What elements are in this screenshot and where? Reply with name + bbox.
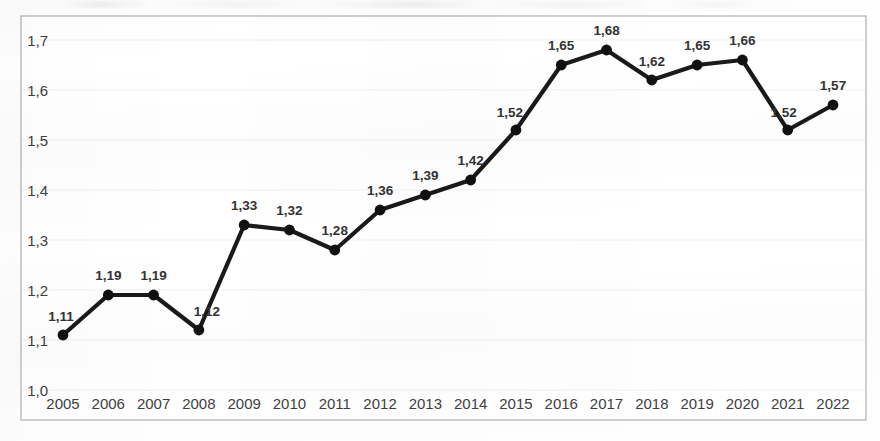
data-point-2016 <box>556 60 567 71</box>
x-tick-label-2018: 2018 <box>635 395 668 412</box>
data-point-2020 <box>737 55 748 66</box>
x-tick-label-2020: 2020 <box>726 395 759 412</box>
x-tick-label-2022: 2022 <box>816 395 849 412</box>
value-label-2013: 1,39 <box>412 168 438 183</box>
data-point-2013 <box>420 190 431 201</box>
value-label-2019: 1,65 <box>684 38 711 53</box>
data-point-2022 <box>828 100 839 111</box>
y-tick-label: 1,1 <box>27 332 48 349</box>
data-point-2015 <box>511 125 522 136</box>
x-tick-label-2017: 2017 <box>590 395 623 412</box>
value-label-2022: 1,57 <box>820 78 846 93</box>
value-label-2006: 1,19 <box>95 268 121 283</box>
value-label-2021: 1,52 <box>771 105 797 120</box>
plot-background <box>21 16 866 420</box>
x-tick-label-2013: 2013 <box>409 395 442 412</box>
value-label-2007: 1,19 <box>140 268 166 283</box>
data-point-2011 <box>329 245 340 256</box>
value-label-2020: 1,66 <box>729 33 756 48</box>
y-tick-label: 1,6 <box>27 82 48 99</box>
value-label-2014: 1,42 <box>458 153 484 168</box>
line-chart-figure: 1,01,11,21,31,41,51,61,7 200520062007200… <box>0 0 880 441</box>
x-tick-label-2015: 2015 <box>499 395 532 412</box>
data-point-2021 <box>782 125 793 136</box>
value-label-2005: 1,11 <box>48 309 74 324</box>
data-point-2009 <box>239 220 250 231</box>
x-tick-label-2014: 2014 <box>454 395 487 412</box>
data-point-2008 <box>193 325 204 336</box>
y-tick-label: 1,2 <box>27 282 48 299</box>
x-tick-label-2010: 2010 <box>273 395 306 412</box>
value-label-2011: 1,28 <box>322 223 349 238</box>
x-tick-label-2009: 2009 <box>227 395 260 412</box>
x-tick-label-2007: 2007 <box>137 395 170 412</box>
data-point-2018 <box>646 75 657 86</box>
value-label-2008: 1,12 <box>194 304 220 319</box>
x-tick-label-2016: 2016 <box>545 395 578 412</box>
y-tick-label: 1,5 <box>27 132 48 149</box>
data-point-2010 <box>284 225 295 236</box>
data-point-2007 <box>148 290 159 301</box>
x-tick-label-2012: 2012 <box>363 395 396 412</box>
value-label-2018: 1,62 <box>639 54 665 69</box>
value-label-2010: 1,32 <box>276 203 302 218</box>
y-tick-label: 1,7 <box>27 32 48 49</box>
y-tick-label: 1,4 <box>27 182 48 199</box>
x-tick-label-2005: 2005 <box>46 395 79 412</box>
value-label-2017: 1,68 <box>593 23 620 38</box>
x-tick-label-2011: 2011 <box>319 395 351 412</box>
y-tick-label: 1,3 <box>27 232 48 249</box>
data-point-2017 <box>601 45 612 56</box>
chart-canvas: 1,01,11,21,31,41,51,61,7 200520062007200… <box>0 0 880 441</box>
data-point-2012 <box>375 205 386 216</box>
value-label-2009: 1,33 <box>231 198 258 213</box>
value-label-2016: 1,65 <box>548 38 575 53</box>
value-label-2015: 1,52 <box>497 105 523 120</box>
data-point-2014 <box>465 175 476 186</box>
data-point-2006 <box>103 290 114 301</box>
data-point-2019 <box>692 60 703 71</box>
x-tick-label-2019: 2019 <box>680 395 713 412</box>
x-tick-label-2021: 2021 <box>771 395 804 412</box>
x-tick-label-2006: 2006 <box>92 395 125 412</box>
data-point-2005 <box>58 330 69 341</box>
x-tick-label-2008: 2008 <box>182 395 215 412</box>
value-label-2012: 1,36 <box>367 183 394 198</box>
y-tick-label: 1,0 <box>27 382 48 399</box>
